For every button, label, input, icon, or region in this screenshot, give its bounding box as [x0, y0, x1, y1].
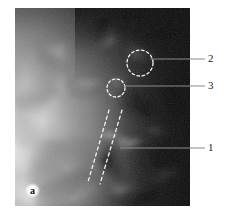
medical-image-canvas	[15, 8, 190, 206]
panel-letter-a: a	[25, 183, 40, 198]
medical-image-panel	[15, 8, 190, 206]
figure-container: 2 3 1 a	[0, 0, 228, 214]
annotation-label-2: 2	[208, 53, 214, 64]
annotation-label-3: 3	[208, 80, 214, 91]
annotation-label-1: 1	[208, 142, 214, 153]
